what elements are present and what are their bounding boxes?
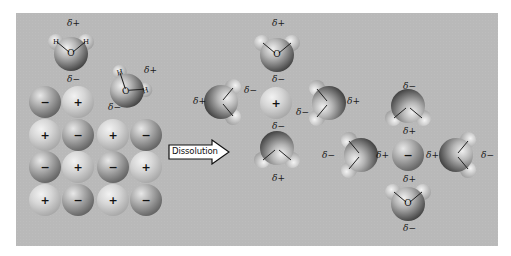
anion: − [62, 184, 94, 216]
anion: − [29, 86, 61, 118]
dissolution-label: Dissolution [172, 146, 218, 156]
svg-text:O: O [273, 49, 280, 59]
cation: + [130, 151, 162, 183]
anion: − [29, 151, 61, 183]
delta-plus-label: δ+ [403, 175, 416, 184]
delta-plus-label: δ+ [272, 19, 285, 28]
water-molecule [254, 128, 300, 174]
water-molecule: O [254, 29, 300, 75]
delta-minus-label: δ− [244, 86, 257, 95]
delta-plus-label: δ+ [67, 19, 80, 28]
delta-minus-label: δ− [296, 108, 309, 117]
delta-minus-label: δ− [403, 82, 416, 91]
water-molecule: O [385, 178, 431, 224]
delta-minus-label: δ− [322, 151, 335, 160]
cation: + [97, 119, 129, 151]
delta-plus-label: δ+ [144, 66, 157, 75]
delta-minus-label: δ− [67, 75, 80, 84]
svg-text:H: H [83, 38, 89, 46]
delta-minus-label: δ− [481, 151, 494, 160]
svg-text:O: O [67, 48, 74, 58]
delta-minus-label: δ− [272, 122, 285, 131]
cation: + [62, 86, 94, 118]
water-molecule [335, 132, 381, 178]
delta-plus-label: δ+ [193, 97, 206, 106]
water-molecule [201, 79, 247, 125]
cation: + [260, 87, 292, 119]
delta-minus-label: δ− [108, 103, 121, 112]
delta-plus-label: δ+ [403, 127, 416, 136]
anion: − [130, 184, 162, 216]
delta-minus-label: δ− [403, 224, 416, 233]
water-molecule: O H H [48, 28, 94, 74]
delta-plus-label: δ+ [376, 151, 389, 160]
anion: − [62, 119, 94, 151]
delta-plus-label: δ+ [347, 97, 360, 106]
delta-plus-label: δ+ [272, 174, 285, 183]
water-molecule [436, 132, 482, 178]
anion: − [97, 151, 129, 183]
delta-minus-label: δ− [272, 75, 285, 84]
anion: − [130, 119, 162, 151]
cation: + [29, 184, 61, 216]
cation: + [62, 151, 94, 183]
dissolution-arrow: Dissolution [168, 139, 230, 165]
svg-text:H: H [53, 38, 59, 46]
water-molecule [303, 80, 349, 126]
delta-plus-label: δ+ [426, 151, 439, 160]
svg-text:O: O [404, 198, 411, 208]
cation: + [29, 119, 61, 151]
anion: − [392, 139, 424, 171]
cation: + [97, 184, 129, 216]
